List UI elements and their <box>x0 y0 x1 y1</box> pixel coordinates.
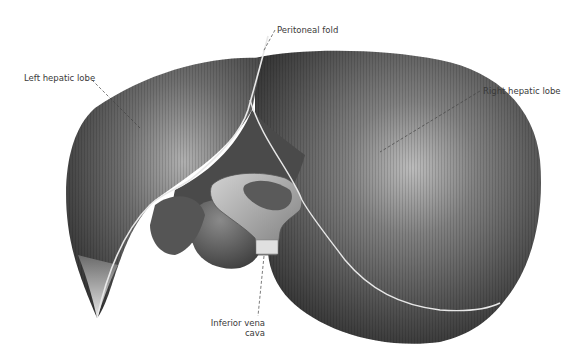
label-left-hepatic-lobe: Left hepatic lobe <box>24 73 95 83</box>
label-right-hepatic-lobe: Right hepatic lobe <box>483 86 561 96</box>
label-inferior-vena-cava: Inferior vena cava <box>195 318 265 338</box>
leader-ivc <box>258 256 264 316</box>
leader-peritoneal-fold <box>263 30 275 52</box>
label-ivc-line2: cava <box>195 328 265 338</box>
liver-illustration: Left hepatic lobe Peritoneal fold Right … <box>0 0 576 364</box>
ivc-band <box>256 240 278 254</box>
label-peritoneal-fold: Peritoneal fold <box>277 25 338 35</box>
label-ivc-line1: Inferior vena <box>195 318 265 328</box>
liver-drawing <box>0 0 576 364</box>
left-lobe-tip <box>78 255 118 318</box>
